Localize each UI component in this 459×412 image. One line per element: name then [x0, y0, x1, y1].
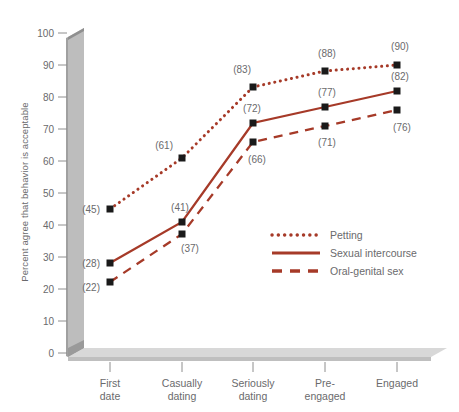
legend-item-petting[interactable]: Petting [272, 229, 363, 241]
y-tick-label-30: 30 [43, 252, 55, 263]
data-label-petting-3: (88) [318, 48, 336, 59]
legend-label-oral-genital-sex: Oral-genital sex [330, 265, 404, 277]
y-tick-label-40: 40 [43, 220, 55, 231]
y-tick-label-10: 10 [43, 316, 55, 327]
y-tick-label-90: 90 [43, 60, 55, 71]
legend-item-oral-genital-sex[interactable]: Oral-genital sex [272, 265, 404, 277]
data-label-oral-0: (22) [82, 282, 100, 293]
data-label-petting-1: (61) [155, 140, 173, 151]
data-point-marker [322, 68, 329, 75]
chart-container: Percent agree that behavior is acceptabl… [0, 0, 459, 412]
y-axis-slab-front [68, 28, 84, 357]
data-label-oral-2: (66) [248, 154, 266, 165]
line-chart: Percent agree that behavior is acceptabl… [0, 0, 459, 412]
x-tick-label-1-line1: Casually [162, 377, 203, 389]
chart-legend: Petting Sexual intercourse Oral-genital … [272, 229, 417, 277]
data-point-marker [107, 260, 114, 267]
legend-label-petting: Petting [330, 229, 363, 241]
x-tick-label-2-line2: dating [239, 390, 268, 402]
data-label-intercourse-0: (28) [82, 258, 100, 269]
data-point-marker [107, 206, 114, 213]
x-axis-tick-labels: First date Casually dating Seriously dat… [100, 377, 418, 402]
data-point-marker [322, 123, 329, 130]
x-tick-label-2-line1: Seriously [231, 377, 275, 389]
axis-3d-decoration [66, 28, 447, 361]
y-axis-ticks [58, 33, 67, 353]
y-tick-label-0: 0 [48, 348, 54, 359]
y-tick-label-70: 70 [43, 124, 55, 135]
data-point-marker [394, 107, 401, 114]
data-label-petting-0: (45) [82, 204, 100, 215]
data-label-oral-3: (71) [318, 137, 336, 148]
y-axis-tick-labels: 100 90 80 70 60 50 40 30 20 10 0 [37, 28, 54, 359]
y-axis-slab-edge [66, 37, 68, 357]
data-label-oral-1: (37) [181, 243, 199, 254]
y-tick-label-80: 80 [43, 92, 55, 103]
x-tick-label-4-line1: Engaged [376, 377, 418, 389]
x-tick-label-3-line2: engaged [305, 390, 346, 402]
data-point-marker [250, 84, 257, 91]
data-label-intercourse-1: (41) [171, 202, 189, 213]
legend-item-sexual-intercourse[interactable]: Sexual intercourse [272, 247, 417, 259]
x-axis-plate-top [68, 348, 447, 357]
data-point-marker [394, 62, 401, 69]
data-point-marker [179, 155, 186, 162]
data-label-intercourse-4: (82) [391, 71, 409, 82]
data-point-marker [179, 231, 186, 238]
series-markers-petting [107, 62, 401, 213]
data-point-marker [179, 219, 186, 226]
data-label-petting-4: (90) [391, 41, 409, 52]
x-tick-label-0-line1: First [100, 377, 120, 389]
y-tick-label-100: 100 [37, 28, 54, 39]
data-label-petting-2: (83) [233, 64, 251, 75]
data-label-intercourse-2: (72) [243, 103, 261, 114]
x-axis-ticks [110, 362, 397, 372]
x-tick-label-1-line2: dating [168, 390, 197, 402]
x-tick-label-0-line2: date [100, 390, 121, 402]
legend-label-sexual-intercourse: Sexual intercourse [330, 247, 417, 259]
x-tick-label-3-line1: Pre- [315, 377, 335, 389]
data-point-marker [394, 88, 401, 95]
x-axis-plate-front [68, 357, 431, 361]
data-label-oral-4: (76) [393, 122, 411, 133]
data-point-marker [250, 139, 257, 146]
y-tick-label-50: 50 [43, 188, 55, 199]
data-point-marker [322, 104, 329, 111]
data-point-marker [250, 120, 257, 127]
y-axis-title: Percent agree that behavior is acceptabl… [19, 102, 30, 281]
data-label-intercourse-3: (77) [318, 87, 336, 98]
y-tick-label-60: 60 [43, 156, 55, 167]
data-point-marker [107, 279, 114, 286]
y-tick-label-20: 20 [43, 284, 55, 295]
